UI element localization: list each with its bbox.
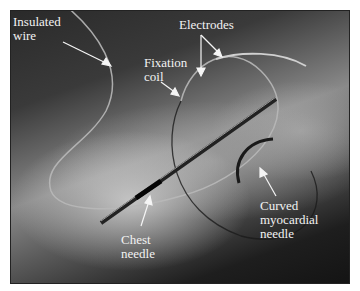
label-electrodes: Electrodes <box>179 18 234 32</box>
label-fixation-coil: Fixation coil <box>144 56 187 84</box>
pacing-lead-photo: Insulated wire Electrodes Fixation coil … <box>10 10 350 284</box>
label-insulated-wire: Insulated wire <box>13 15 61 43</box>
curved-myocardial-needle <box>238 139 273 183</box>
chest-needle <box>101 99 276 223</box>
label-chest-needle: Chest needle <box>121 233 155 261</box>
electrodes <box>216 54 306 66</box>
label-curved-myocardial-needle: Curved myocardial needle <box>260 199 318 241</box>
photo-illustration <box>11 11 350 284</box>
